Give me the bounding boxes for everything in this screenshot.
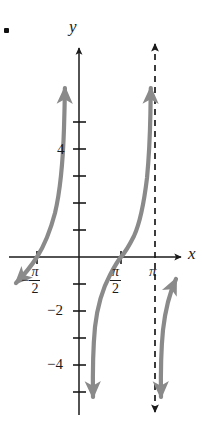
fraction-denominator: 2 — [29, 281, 40, 296]
fraction-pi-over-2: π2 — [29, 265, 40, 296]
fraction-numerator: π — [110, 265, 121, 281]
figure-canvas: y x 4 −2 −4 −π2 π2 π — [0, 0, 202, 424]
tangent-branch-right — [161, 279, 176, 397]
y-axis-label: y — [69, 18, 77, 35]
tangent-graph-svg — [0, 0, 202, 424]
y-tick-label-minus-4: −4 — [47, 357, 63, 372]
fraction-numerator: π — [29, 265, 40, 281]
tangent-curves — [16, 88, 176, 397]
y-tick-label-minus-2: −2 — [47, 303, 63, 318]
minus-sign: − — [21, 273, 29, 288]
tangent-branch-left — [16, 88, 65, 283]
x-axis-label: x — [188, 245, 196, 262]
x-tick-label-pi-over-2: π2 — [110, 265, 121, 296]
y-tick-label-4: 4 — [57, 142, 65, 157]
x-tick-label-minus-pi-over-2: −π2 — [21, 265, 40, 296]
x-tick-label-pi: π — [149, 264, 157, 279]
fraction-denominator: 2 — [110, 281, 121, 296]
fraction-pi-over-2: π2 — [110, 265, 121, 296]
tangent-branch-middle — [93, 88, 151, 397]
